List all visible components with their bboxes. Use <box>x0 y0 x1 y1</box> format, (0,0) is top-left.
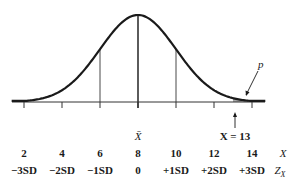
z-value-label: −2SD <box>49 164 75 176</box>
x-value-label: 6 <box>97 147 103 159</box>
p-label: p <box>257 58 264 70</box>
z-values-row: −3SD−2SD−1SD0+1SD+2SD+3SD <box>11 164 265 176</box>
x-value-label: 12 <box>209 147 221 159</box>
z-value-label: −1SD <box>87 164 113 176</box>
normal-distribution-figure: p X̄ X = 13 2468101214 −3SD−2SD−1SD0+1SD… <box>0 0 304 187</box>
x-equals-13-label: X = 13 <box>220 130 251 142</box>
x-value-label: 10 <box>171 147 183 159</box>
x-value-label: 8 <box>135 147 141 159</box>
z-value-label: +2SD <box>201 164 227 176</box>
x-row-name: X <box>279 147 288 159</box>
x13-arrowhead-icon <box>233 112 237 117</box>
sd-vertical-lines <box>100 15 176 108</box>
p-pointer-arrow <box>246 71 258 95</box>
x-value-label: 4 <box>59 147 65 159</box>
z-value-label: +3SD <box>239 164 265 176</box>
x-value-label: 14 <box>247 147 259 159</box>
z-value-label: −3SD <box>11 164 37 176</box>
x-value-label: 2 <box>21 147 27 159</box>
z-row-name: ZX <box>274 164 286 179</box>
mean-label: X̄ <box>134 130 143 142</box>
z-value-label: +1SD <box>163 164 189 176</box>
x-values-row: 2468101214 <box>21 147 258 159</box>
z-subscript: X <box>280 170 287 179</box>
z-value-label: 0 <box>135 164 141 176</box>
